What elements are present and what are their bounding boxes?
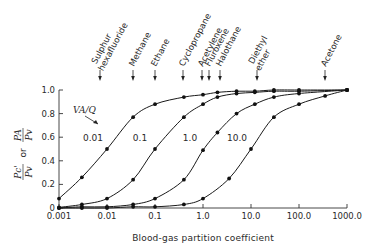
data-point xyxy=(201,197,205,201)
data-point xyxy=(201,102,205,106)
x-axis-label: Blood-gas partition coefficient xyxy=(132,233,274,243)
data-point xyxy=(131,178,135,182)
x-tick-label: 0.1 xyxy=(148,211,162,221)
legend-va-q: VA/Q xyxy=(73,105,98,124)
data-point xyxy=(272,115,276,119)
data-point xyxy=(345,88,349,92)
data-point xyxy=(80,206,84,210)
data-point xyxy=(297,92,301,96)
x-tick-label: 1.0 xyxy=(196,211,210,221)
x-tick-label: 1000.0 xyxy=(332,211,362,221)
svg-text:Acetone: Acetone xyxy=(319,33,344,68)
data-point xyxy=(323,94,327,98)
data-point xyxy=(131,205,135,209)
y-tick-label: 0 xyxy=(50,203,55,213)
curve-label: 0.01 xyxy=(83,133,103,143)
partition-coefficient-chart: 0.0010.010.11.010.0100.01000.000.20.40.6… xyxy=(0,0,376,247)
y-label-den1: Pv xyxy=(24,166,34,178)
gas-label: Sulphurhexafluoride xyxy=(88,17,130,73)
data-point xyxy=(153,147,157,151)
x-tick-label: 0.01 xyxy=(98,211,117,221)
data-point xyxy=(182,203,186,207)
gas-label: Acetone xyxy=(319,33,344,68)
gas-label: Ethane xyxy=(149,37,172,68)
y-label-den2: Pv xyxy=(24,129,34,141)
y-label-num2: PA xyxy=(13,129,23,142)
data-point xyxy=(131,115,135,119)
data-point xyxy=(57,197,61,201)
data-point xyxy=(272,89,276,93)
data-point xyxy=(105,206,109,210)
y-label-num1: Pc' xyxy=(13,165,23,180)
data-points xyxy=(57,88,349,210)
y-label-or: or xyxy=(18,148,28,158)
data-point xyxy=(216,131,220,135)
data-point xyxy=(216,95,220,99)
data-point xyxy=(201,148,205,152)
data-point xyxy=(201,93,205,97)
data-point xyxy=(235,112,239,116)
y-tick-label: 0.4 xyxy=(41,156,55,166)
gas-label: Diethylether xyxy=(245,34,277,72)
data-point xyxy=(216,90,220,94)
y-tick-label: 1.0 xyxy=(41,85,55,95)
curve-labels: 0.010.11.010.0 xyxy=(83,133,247,143)
data-point xyxy=(249,147,253,151)
gas-annotations: SulphurhexafluorideMethaneEthaneCyclopro… xyxy=(88,12,344,81)
x-tick-label: 100.0 xyxy=(287,211,311,221)
data-point xyxy=(227,177,231,181)
y-tick-label: 0.6 xyxy=(41,132,55,142)
x-tick-label: 10.0 xyxy=(242,211,261,221)
data-point xyxy=(153,197,157,201)
data-point xyxy=(297,102,301,106)
curve-0.01 xyxy=(59,90,347,199)
data-point xyxy=(153,102,157,106)
data-point xyxy=(105,147,109,151)
svg-text:Ethane: Ethane xyxy=(149,37,172,68)
y-axis-label: Pc' Pv or PA Pv xyxy=(13,128,34,180)
y-tick-label: 0.8 xyxy=(41,109,55,119)
curve-label: 0.1 xyxy=(133,133,147,143)
y-tick-label: 0.2 xyxy=(41,179,55,189)
data-point xyxy=(253,102,257,106)
data-point xyxy=(153,205,157,209)
data-point xyxy=(253,90,257,94)
data-point xyxy=(272,95,276,99)
data-point xyxy=(182,95,186,99)
data-point xyxy=(182,115,186,119)
data-point xyxy=(80,175,84,179)
curve-label: 1.0 xyxy=(183,133,198,143)
data-point xyxy=(105,197,109,201)
data-point xyxy=(235,92,239,96)
curve-label: 10.0 xyxy=(227,133,247,143)
legend-title: VA/Q xyxy=(73,105,96,115)
data-point xyxy=(182,178,186,182)
data-point xyxy=(57,206,61,210)
